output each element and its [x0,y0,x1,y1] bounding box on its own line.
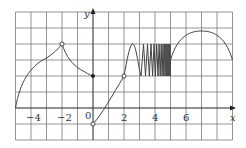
x-axis-arrow-icon [230,106,236,111]
x-tick-label: −4 [26,112,41,123]
x-tick-label: 6 [183,112,189,123]
oscillation-dense-band [165,44,171,76]
origin-label: 0 [85,110,91,121]
x-tick-label: −2 [57,112,72,123]
x-tick-label: 2 [121,112,127,123]
open-point-marker [122,74,126,78]
function-graph: x y −4 −2 0 2 4 6 [0,0,246,148]
y-axis-arrow-icon [91,8,96,14]
curve-segment-3 [93,44,140,124]
x-tick-label: 4 [152,112,158,123]
open-point-marker [91,122,95,126]
filled-point-marker [91,74,95,78]
open-point-marker [60,42,64,46]
y-axis-label: y [83,8,90,19]
x-axis-label: x [230,112,236,123]
